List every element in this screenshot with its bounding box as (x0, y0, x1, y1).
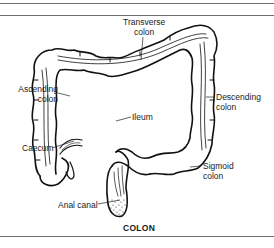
rectum-outline (107, 151, 129, 216)
colon-illustration (0, 0, 274, 248)
leader-anal-canal (98, 200, 120, 204)
label-ascending-line2: colon (18, 94, 58, 104)
label-sigmoid-line1: Sigmoid (203, 161, 234, 171)
label-descending-line1: Descending (216, 92, 261, 102)
label-anal-canal: Anal canal (58, 200, 98, 210)
label-sigmoid-colon: Sigmoid colon (203, 161, 234, 181)
label-ileum: Ileum (132, 112, 153, 122)
label-transverse-line2: colon (123, 27, 165, 37)
label-transverse-colon: Transverse colon (123, 17, 165, 37)
label-ascending-colon: Ascending colon (18, 84, 58, 104)
label-transverse-line1: Transverse (123, 17, 165, 27)
label-descending-colon: Descending colon (216, 92, 261, 112)
leader-ileum (116, 117, 131, 121)
label-descending-line2: colon (216, 102, 261, 112)
caecum-outline (40, 158, 69, 186)
figure-caption: COLON (123, 223, 155, 233)
label-ascending-line1: Ascending (18, 84, 58, 94)
label-caecum: Caecum (22, 143, 54, 153)
label-sigmoid-line2: colon (203, 171, 234, 181)
leader-ascending (58, 93, 70, 96)
